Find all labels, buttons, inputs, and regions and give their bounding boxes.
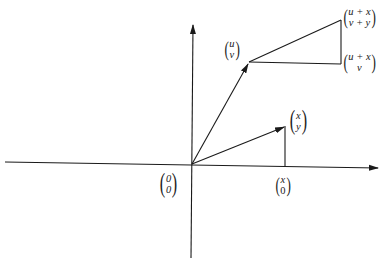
left-paren: (	[290, 107, 295, 134]
right-paren: )	[286, 174, 290, 196]
origin-top: 0	[166, 173, 171, 184]
uv-bottom: v	[230, 49, 235, 60]
sum-bottom: v + y	[349, 17, 371, 28]
right-paren: )	[371, 6, 375, 28]
horizontal-component-segment	[249, 62, 341, 64]
vector-addition-diagram	[0, 0, 391, 267]
corner-top: u + x	[348, 51, 370, 62]
label-xy: ( x y )	[288, 107, 309, 134]
uv-top: u	[229, 38, 234, 49]
left-paren: (	[343, 51, 347, 73]
left-paren: (	[160, 170, 165, 197]
left-paren: (	[343, 6, 347, 28]
origin-bottom: 0	[166, 184, 171, 195]
translated-xy-segment	[249, 20, 341, 62]
left-paren: (	[275, 174, 279, 196]
y-axis	[191, 25, 193, 258]
corner-bottom: v	[357, 62, 362, 73]
vector-xy-arrow	[192, 127, 284, 164]
x0-top: x	[281, 174, 286, 185]
vector-uv-arrow	[192, 64, 248, 164]
label-corner: ( u + x v )	[342, 51, 377, 73]
right-paren: )	[172, 170, 177, 197]
xy-bottom: y	[296, 121, 301, 132]
x0-bottom: 0	[280, 185, 285, 196]
right-paren: )	[301, 107, 306, 134]
label-uv: ( u v )	[223, 38, 241, 60]
sum-top: u + x	[348, 6, 370, 17]
right-paren: )	[235, 38, 239, 60]
label-sum: ( u + x v + y )	[342, 6, 377, 28]
label-x0: ( x 0 )	[274, 174, 292, 196]
left-paren: (	[224, 38, 228, 60]
label-origin: ( 0 0 )	[158, 170, 179, 197]
right-paren: )	[371, 51, 375, 73]
xy-top: x	[296, 110, 301, 121]
